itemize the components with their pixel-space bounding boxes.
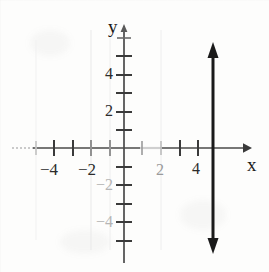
graph-figure: −4 −2 2 4 4 2 −2 −4 x y [0,0,269,272]
y-axis-label: y [108,17,118,36]
x-tick-label-4: 4 [192,161,200,177]
y-tick-label-4: 4 [105,66,113,82]
vertical-line-arrowhead-top [208,42,219,58]
coordinate-plane [0,0,269,272]
y-tick-label-2: 2 [105,103,113,119]
x-tick-label-minus-2: −2 [78,161,96,178]
x-axis-label: x [247,155,257,174]
y-tick-label-minus-2: −2 [96,177,113,193]
x-axis-arrowhead [243,143,252,153]
vertical-line-arrowhead-bottom [208,238,219,254]
y-axis-arrowhead [121,24,128,32]
x-tick-label-minus-4: −4 [40,161,58,178]
x-tick-label-2: 2 [156,162,164,178]
y-tick-label-minus-4: −4 [96,214,113,230]
